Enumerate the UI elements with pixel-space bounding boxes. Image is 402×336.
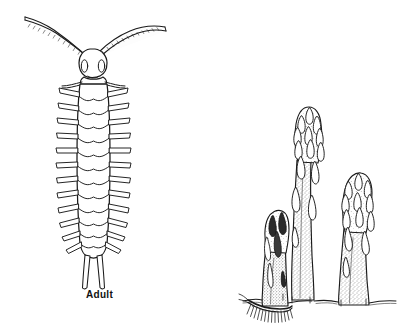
left-eye-organ bbox=[81, 60, 87, 72]
head-capsule bbox=[79, 49, 107, 78]
figure-root: Adult bbox=[0, 0, 402, 336]
illustration-canvas bbox=[0, 0, 402, 336]
adult-caption-label: Adult bbox=[86, 289, 113, 300]
spear-front-damaged bbox=[262, 210, 289, 306]
right-eye-organ bbox=[98, 60, 104, 72]
